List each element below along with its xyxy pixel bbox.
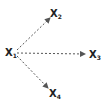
edge-x1-x4 — [17, 56, 48, 88]
edge-x1-x2 — [17, 18, 50, 50]
node-x1: X1 — [5, 48, 17, 61]
node-x4-label: X — [49, 88, 57, 99]
node-x3: X3 — [89, 50, 101, 63]
node-x1-sub: 1 — [13, 52, 17, 59]
edge-x1-x3 — [17, 53, 85, 54]
node-x2: X2 — [50, 9, 62, 22]
node-x4-sub: 4 — [57, 93, 61, 100]
node-x2-sub: 2 — [58, 13, 62, 20]
node-x3-label: X — [89, 49, 97, 60]
node-x4: X4 — [49, 89, 61, 102]
node-x3-sub: 3 — [97, 54, 101, 61]
node-x2-label: X — [50, 8, 58, 19]
node-x1-label: X — [5, 47, 13, 58]
